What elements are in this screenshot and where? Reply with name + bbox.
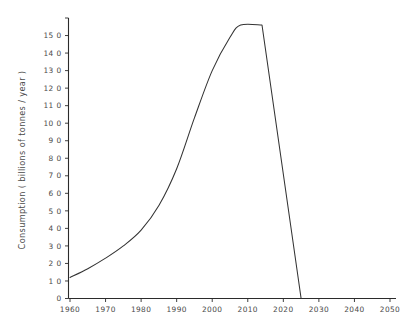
y-tick-label: 1 0 — [49, 277, 62, 286]
y-axis-ticks: 01 02 03 04 05 06 07 08 09 010 011 012 0… — [43, 18, 68, 303]
y-tick-label: 2 0 — [49, 259, 62, 268]
chart-svg: Consumption ( billions of tonnes / year … — [0, 0, 414, 329]
y-tick-label: 3 0 — [49, 242, 62, 251]
x-tick-label: 2040 — [344, 305, 364, 314]
y-tick-label: 9 0 — [49, 136, 62, 145]
y-tick-label: 0 — [56, 294, 61, 303]
x-tick-label: 1980 — [131, 305, 151, 314]
x-tick-label: 2050 — [380, 305, 400, 314]
y-tick-label: 6 0 — [49, 189, 62, 198]
y-tick-label: 7 0 — [49, 171, 62, 180]
y-tick-label: 5 0 — [49, 207, 62, 216]
y-tick-label: 13 0 — [43, 66, 61, 75]
x-tick-label: 1960 — [60, 305, 80, 314]
x-axis-ticks: 1960197019801990200020102020203020402050 — [60, 299, 400, 315]
consumption-chart: Consumption ( billions of tonnes / year … — [0, 0, 414, 329]
data-series-line — [70, 24, 301, 298]
y-tick-label: 8 0 — [49, 154, 62, 163]
y-tick-label: 4 0 — [49, 224, 62, 233]
x-tick-label: 2010 — [238, 305, 258, 314]
y-axis-title: Consumption ( billions of tonnes / year … — [17, 71, 27, 250]
x-tick-label: 1990 — [166, 305, 186, 314]
x-tick-label: 2000 — [202, 305, 222, 314]
y-tick-label: 15 0 — [43, 31, 61, 40]
x-tick-label: 2020 — [273, 305, 293, 314]
y-tick-label: 10 0 — [43, 119, 61, 128]
x-tick-label: 2030 — [309, 305, 329, 314]
y-tick-label: 11 0 — [43, 101, 61, 110]
y-tick-label: 12 0 — [43, 84, 61, 93]
y-tick-label: 14 0 — [43, 49, 61, 58]
x-tick-label: 1970 — [95, 305, 115, 314]
